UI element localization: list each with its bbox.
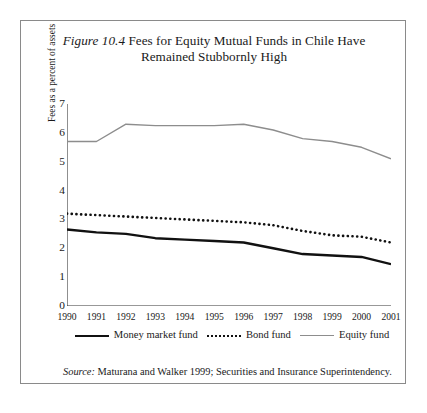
series-line-equity-fund bbox=[67, 124, 391, 159]
y-tick-label: 6 bbox=[47, 127, 65, 138]
legend-item-equity-fund: Equity fund bbox=[300, 329, 389, 340]
source-note: Source: Maturana and Walker 1999; Securi… bbox=[63, 365, 393, 379]
y-tick-label: 0 bbox=[47, 300, 65, 311]
figure-border-box: Figure 10.4 Fees for Equity Mutual Funds… bbox=[20, 20, 406, 384]
x-tick-label: 2001 bbox=[373, 311, 409, 322]
legend-swatch-icon bbox=[207, 330, 241, 340]
series-line-money-market-fund bbox=[67, 230, 391, 265]
axis-lines bbox=[67, 104, 391, 306]
y-tick-label: 7 bbox=[47, 98, 65, 109]
y-tick-label: 4 bbox=[47, 185, 65, 196]
figure-title: Figure 10.4 Fees for Equity Mutual Funds… bbox=[49, 33, 379, 65]
figure-title-text: Fees for Equity Mutual Funds in Chile Ha… bbox=[125, 33, 365, 64]
source-label: Source: bbox=[63, 366, 95, 377]
legend-label: Equity fund bbox=[339, 329, 389, 340]
chart-svg bbox=[67, 104, 391, 306]
legend-label: Money market fund bbox=[114, 329, 198, 340]
y-tick-label: 5 bbox=[47, 156, 65, 167]
data-series-group bbox=[67, 124, 391, 264]
y-tick-label: 2 bbox=[47, 243, 65, 254]
legend-swatch-icon bbox=[300, 330, 334, 340]
y-tick-label: 3 bbox=[47, 214, 65, 225]
source-text: Maturana and Walker 1999; Securities and… bbox=[95, 366, 392, 377]
legend-item-money-market-fund: Money market fund bbox=[75, 329, 198, 340]
figure-number: Figure 10.4 bbox=[63, 33, 125, 48]
legend-item-bond-fund: Bond fund bbox=[207, 329, 291, 340]
series-line-bond-fund bbox=[67, 214, 391, 243]
chart-legend: Money market fundBond fundEquity fund bbox=[67, 329, 397, 340]
legend-swatch-icon bbox=[75, 330, 109, 340]
y-tick-label: 1 bbox=[47, 271, 65, 282]
legend-label: Bond fund bbox=[246, 329, 291, 340]
chart-plot-area: Fees as a percent of assets 01234567 199… bbox=[67, 104, 391, 306]
